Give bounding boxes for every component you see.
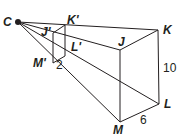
label-m-prime: M' <box>33 56 47 70</box>
label-height: 10 <box>163 61 177 75</box>
label-j: J <box>118 35 125 49</box>
dilation-diagram: C K' J' L' M' 2 K J L M 10 6 <box>0 0 179 137</box>
label-k-prime: K' <box>67 13 80 27</box>
ray-c-k <box>18 22 158 30</box>
label-m: M <box>113 123 124 137</box>
label-l-prime: L' <box>71 40 82 54</box>
label-c: C <box>3 15 12 29</box>
label-l: L <box>164 97 171 111</box>
label-depth: 6 <box>140 113 147 127</box>
edge-k-l <box>158 30 159 104</box>
edge-j-k <box>120 30 158 50</box>
label-k: K <box>163 23 173 37</box>
label-j-prime: J' <box>41 25 52 39</box>
edge-j1-k1 <box>53 25 65 33</box>
center-point <box>15 19 21 25</box>
label-small-depth: 2 <box>56 58 63 72</box>
